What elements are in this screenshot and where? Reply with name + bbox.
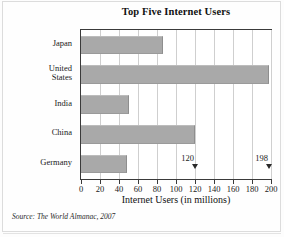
x-tick-label: 140 [208,184,221,194]
bar-united-states [81,65,269,83]
source-caption: Source: The World Almanac, 2007 [12,212,115,221]
gridline [176,30,177,179]
annotation-label-120: 120 [181,153,194,163]
y-tick-label: Japan [0,39,78,48]
bar-india [81,95,129,113]
annotation-label-198: 198 [255,153,268,163]
bar-germany [81,155,127,173]
bar-china [81,125,195,143]
plot-area [80,29,272,180]
bottom-divider [3,233,281,234]
chart-title: Top Five Internet Users [80,6,272,17]
x-tick-label: 80 [153,184,162,194]
x-tick-label: 100 [170,184,183,194]
bar-japan [81,36,163,54]
x-tick-label: 120 [189,184,202,194]
x-tick-label: 180 [246,184,259,194]
gridline [252,30,253,179]
gridline [214,30,215,179]
y-tick-label: China [0,128,78,137]
y-tick-label: United States [0,64,78,82]
gridline [271,30,272,179]
chart-page: Top Five Internet Users Country Internet… [0,0,284,237]
y-tick-label: Germany [0,158,78,167]
gridline [233,30,234,179]
annotation-arrow-120 [192,164,198,169]
plot-inner [81,30,271,179]
annotation-arrow-198 [266,164,272,169]
x-axis-label: Internet Users (in millions) [80,194,272,205]
x-tick-label: 0 [79,184,83,194]
x-tick-label: 200 [265,184,278,194]
x-tick-label: 160 [227,184,240,194]
x-tick-label: 60 [134,184,143,194]
y-tick-label: India [0,99,78,108]
x-tick-label: 40 [115,184,124,194]
gridline [195,30,196,179]
x-tick-label: 20 [96,184,105,194]
